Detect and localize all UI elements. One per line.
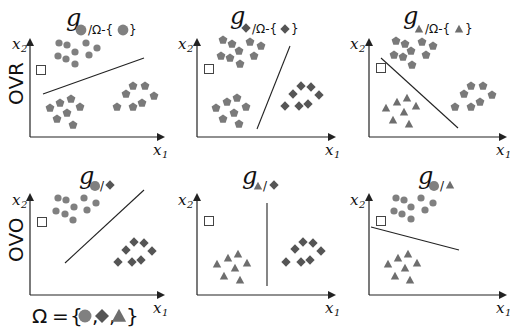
panel-title-sep: / [440,179,445,193]
triangle-cluster [382,94,420,128]
equals-sign: = [52,304,69,328]
panel-title-sub: /Ω-{ [88,23,113,37]
x-axis-label: x [153,299,162,317]
triangle-icon [455,25,463,33]
circle-cluster [52,194,99,223]
diamond-cluster [281,237,325,266]
panel-title-sub: /Ω-{ [425,22,450,36]
panel-ovr-circle: g /Ω-{ } x 2 x 1 [12,4,168,160]
comma: , [109,304,115,328]
x-axis-sub: 1 [334,149,340,160]
panel-ovo-circle-triangle: g / x 2 x 1 [350,162,511,318]
circle-icon [429,181,439,191]
query-point [38,218,47,227]
panel-title-close: } [465,22,473,36]
triangle-cluster [384,250,421,284]
x-axis-sub: 1 [505,149,511,160]
brace-close: } [126,304,139,328]
diamond-icon [105,180,114,189]
x-axis-label: x [153,141,162,159]
y-axis-sub: 2 [20,43,27,54]
diamond-icon [280,24,289,33]
pentagon-cluster-top [390,36,438,68]
panel-title-sep: / [263,179,268,193]
circle-icon [90,181,100,191]
query-point [377,217,386,226]
y-axis-label: x [12,191,21,209]
panel-ovr-triangle: g /Ω-{ } x 2 x 1 [350,2,511,160]
query-point [377,64,386,73]
query-point [205,217,214,226]
y-axis-label: x [12,35,21,53]
x-axis-sub: 1 [334,307,340,318]
panel-title: g [230,2,245,30]
y-axis-sub: 2 [358,199,365,210]
pentagon-cluster-top [217,35,266,67]
triangle-icon [446,181,454,189]
circle-icon [79,310,92,323]
panel-title: g [242,162,257,190]
pentagon-cluster-right [113,81,159,110]
row-label-ovr: OVR [4,62,28,105]
query-point [205,65,214,74]
circle-cluster [390,194,436,222]
panel-title-close: } [291,22,299,36]
y-axis-sub: 2 [358,43,365,54]
panel-title-sep: / [100,179,105,193]
pentagon-cluster-left [46,94,85,128]
row-label-ovo: OVO [4,218,28,262]
pentagon-cluster-bottom [212,93,251,127]
y-axis-label: x [178,35,187,53]
decision-boundary [371,227,459,250]
diamond-cluster [280,81,323,110]
class-set-legend: Ω = { , , } [32,304,139,328]
query-point [37,66,46,75]
x-axis-sub: 1 [162,149,168,160]
panel-ovo-triangle-diamond: g / x 2 x 1 [178,162,340,318]
x-axis-label: x [496,299,505,317]
x-axis-sub: 1 [162,307,168,318]
y-axis-sub: 2 [186,199,193,210]
x-axis-label: x [496,141,505,159]
panel-title-close: } [129,23,137,37]
diamond-cluster [113,237,156,266]
x-axis-label: x [325,299,334,317]
decision-boundary [43,58,144,94]
pentagon-cluster-right [451,81,497,110]
panel-ovo-circle-diamond: g / x 2 x 1 [12,162,168,318]
diamond-icon [269,180,278,189]
decision-boundary [257,46,290,129]
circle-cluster [54,39,100,67]
y-axis-sub: 2 [20,199,27,210]
decision-boundary [65,190,144,263]
omega-symbol: Ω [32,304,47,328]
x-axis-sub: 1 [505,307,511,318]
panel-ovr-diamond: g /Ω-{ } x 2 x 1 [178,2,340,160]
y-axis-label: x [178,191,187,209]
triangle-cluster [213,250,251,284]
y-axis-sub: 2 [186,43,193,54]
panel-title: g [403,2,418,30]
ovr-ovo-diagram: OVR OVO g /Ω-{ } x 2 x 1 [0,0,519,332]
y-axis-label: x [350,191,359,209]
circle-icon [118,25,129,36]
x-axis-label: x [325,141,334,159]
circle-icon [76,25,87,36]
panel-title-sub: /Ω-{ [252,22,277,36]
y-axis-label: x [350,35,359,53]
